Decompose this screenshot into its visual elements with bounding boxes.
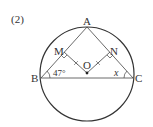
angle-arc-b-icon <box>47 71 50 78</box>
label-b: B <box>31 72 38 84</box>
equal-mark-on-icon <box>96 61 100 65</box>
equal-mark-om-icon <box>74 61 78 65</box>
center-dot-icon <box>86 72 89 75</box>
label-c: C <box>135 72 142 84</box>
angle-c-variable: x <box>113 67 119 78</box>
problem-number: (2) <box>11 13 24 26</box>
geometry-figure: (2) A B C M N O 47° x <box>0 0 153 127</box>
angle-b-value: 47° <box>53 68 66 78</box>
label-m: M <box>54 45 64 57</box>
label-n: N <box>110 45 118 57</box>
label-o: O <box>83 59 91 71</box>
angle-arc-c-icon <box>124 71 127 78</box>
label-a: A <box>83 15 91 27</box>
